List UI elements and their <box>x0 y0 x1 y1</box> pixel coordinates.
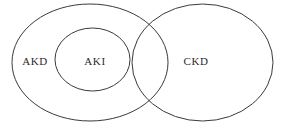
venn-diagram: AKD AKI CKD <box>0 0 283 128</box>
ckd-set-label: CKD <box>183 55 208 67</box>
akd-set-label: AKD <box>22 55 48 67</box>
aki-set-label: AKI <box>84 55 105 67</box>
